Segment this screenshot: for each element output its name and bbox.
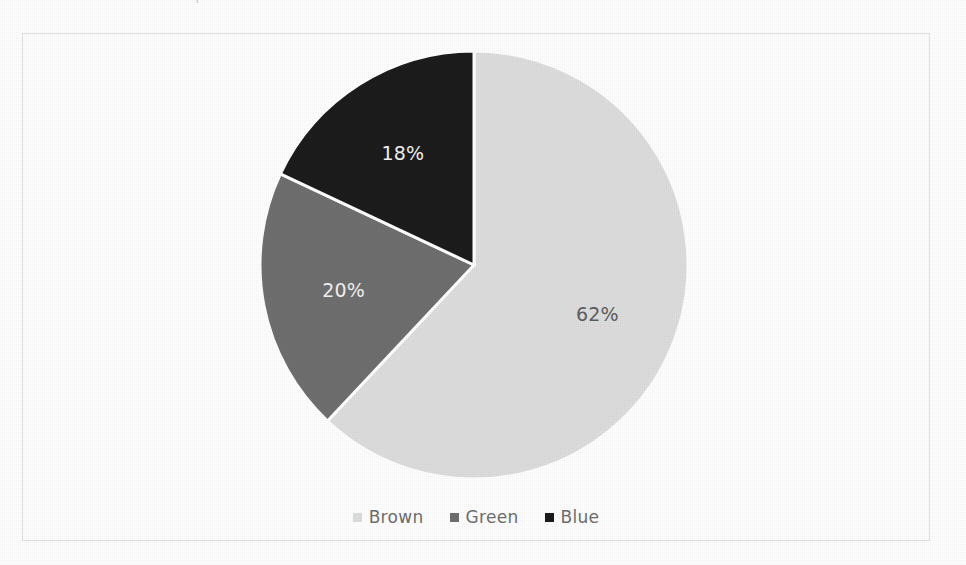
- slice-label-green: 20%: [322, 279, 365, 301]
- slice-label-blue: 18%: [381, 142, 424, 164]
- legend-label-blue: Blue: [561, 507, 600, 527]
- plot-area: 62% 20% 18% Brown Green Blue: [23, 34, 929, 540]
- legend-item-green[interactable]: Green: [450, 507, 519, 527]
- scan-mark-left: ’: [108, 0, 112, 6]
- scan-artifact: ’ †: [0, 0, 966, 18]
- legend-swatch-blue: [545, 513, 554, 522]
- legend-label-brown: Brown: [369, 507, 424, 527]
- legend-item-blue[interactable]: Blue: [545, 507, 600, 527]
- legend-label-green: Green: [466, 507, 519, 527]
- legend-swatch-green: [450, 513, 459, 522]
- legend-swatch-brown: [353, 513, 362, 522]
- chart-legend: Brown Green Blue: [23, 500, 929, 534]
- slice-label-brown: 62%: [576, 303, 619, 325]
- legend-item-brown[interactable]: Brown: [353, 507, 424, 527]
- scan-mark-right: †: [194, 0, 201, 5]
- pie-chart: 62% 20% 18%: [252, 42, 696, 488]
- chart-frame: 62% 20% 18% Brown Green Blue: [22, 33, 930, 541]
